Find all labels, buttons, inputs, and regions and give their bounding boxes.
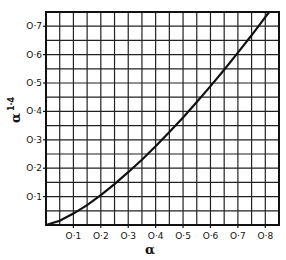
y-axis-label: α 1·4 <box>7 96 23 123</box>
x-axis-ticks: O·1O·2O·3O·4O·5O·6O·7O·8 <box>66 225 274 241</box>
x-tick-label: O·7 <box>230 231 246 241</box>
y-tick-label: O·5 <box>26 78 42 88</box>
x-tick-label: O·8 <box>257 231 273 241</box>
y-axis-label-base: α <box>8 113 23 123</box>
x-axis-label: α <box>145 242 155 257</box>
y-axis-label-exponent: 1·4 <box>7 96 16 111</box>
y-tick-label: O·4 <box>26 106 42 116</box>
y-tick-label: O·2 <box>26 163 42 173</box>
y-tick-label: O·7 <box>26 21 42 31</box>
x-tick-label: O·2 <box>93 231 109 241</box>
chart: O·1O·2O·3O·4O·5O·6O·7O·8 O·1O·2O·3O·4O·5… <box>0 0 286 260</box>
y-tick-label: O·1 <box>26 192 42 202</box>
y-tick-label: O·3 <box>26 135 42 145</box>
y-axis-ticks: O·1O·2O·3O·4O·5O·6O·7 <box>26 21 46 201</box>
y-tick-label: O·6 <box>26 50 42 60</box>
x-tick-label: O·5 <box>175 231 191 241</box>
x-tick-label: O·3 <box>120 231 136 241</box>
x-tick-label: O·6 <box>203 231 219 241</box>
x-tick-label: O·4 <box>148 231 164 241</box>
x-tick-label: O·1 <box>66 231 82 241</box>
data-line <box>46 12 269 225</box>
